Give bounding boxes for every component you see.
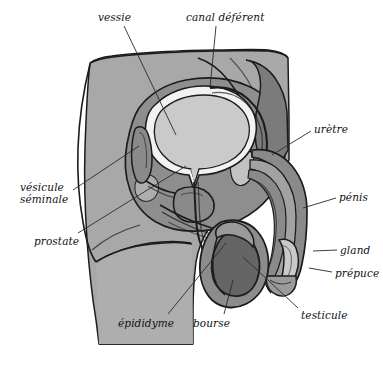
label-prepuce-text: prépuce	[335, 267, 379, 279]
label-bourse: bourse	[193, 318, 230, 330]
label-canal-deferent-text: canal déférent	[186, 11, 265, 23]
label-testicule-text: testicule	[301, 309, 348, 321]
label-bourse-text: bourse	[193, 317, 230, 329]
penis-line	[303, 198, 336, 208]
anatomy-figure: vessie canal déférent urètre pénis gland…	[0, 0, 383, 367]
label-gland: gland	[340, 245, 370, 257]
label-uretre: urètre	[314, 124, 348, 136]
label-testicule: testicule	[301, 310, 348, 322]
label-prostate: prostate	[34, 236, 79, 248]
label-uretre-text: urètre	[314, 123, 348, 135]
label-epididyme: épididyme	[118, 318, 174, 330]
label-vesicule-seminale-line1: vésicule	[20, 181, 64, 193]
label-prostate-text: prostate	[34, 235, 79, 247]
label-vessie: vessie	[98, 12, 131, 24]
label-gland-text: gland	[340, 244, 370, 256]
prepuce-line	[309, 268, 332, 272]
label-prepuce: prépuce	[335, 268, 379, 280]
label-canal-deferent: canal déférent	[186, 12, 265, 24]
label-vesicule-seminale-line2: séminale	[20, 193, 68, 205]
label-vessie-text: vessie	[98, 11, 131, 23]
gland-line	[313, 250, 337, 251]
label-vesicule-seminale: vésicule séminale	[20, 181, 68, 205]
label-epididyme-text: épididyme	[118, 317, 174, 329]
label-penis: pénis	[339, 192, 368, 204]
label-penis-text: pénis	[339, 191, 368, 203]
